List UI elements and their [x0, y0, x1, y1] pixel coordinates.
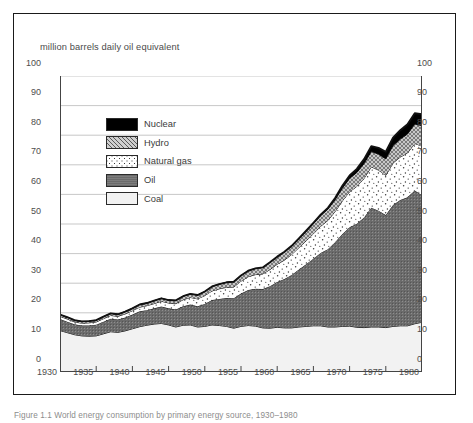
y-tick-label-right: 0 [417, 355, 443, 364]
legend-swatch-nuclear [106, 118, 138, 131]
y-tick-label-right: 100 [417, 59, 443, 68]
y-tick-label-right: 90 [417, 88, 443, 97]
y-tick-label-left: 50 [17, 207, 41, 216]
legend-swatch-natural_gas [106, 155, 138, 168]
legend-item-hydro: Hydro [106, 134, 192, 153]
legend-item-nuclear: Nuclear [106, 115, 192, 134]
legend-swatch-hydro [106, 136, 138, 149]
y-tick-label-right: 50 [417, 207, 443, 216]
y-tick-label-left: 30 [17, 266, 41, 275]
chart-frame: million barrels daily oil equivalent [13, 13, 456, 395]
chart-title: million barrels daily oil equivalent [40, 42, 180, 52]
y-tick-label-right: 20 [417, 295, 443, 304]
legend-label-oil: Oil [144, 175, 155, 185]
y-tick-label-left: 80 [17, 118, 41, 127]
x-tick-label: 1935 [66, 368, 100, 377]
y-tick-label-left: 100 [17, 59, 41, 68]
y-tick-label-right: 10 [417, 325, 443, 334]
legend-label-natural_gas: Natural gas [144, 156, 192, 166]
x-tick-label: 1940 [102, 368, 136, 377]
legend-label-hydro: Hydro [144, 138, 169, 148]
legend-item-natural_gas: Natural gas [106, 152, 192, 171]
y-tick-label-left: 10 [17, 325, 41, 334]
legend-item-coal: Coal [106, 189, 192, 208]
x-tick-label: 1950 [175, 368, 209, 377]
figure-caption: Figure 1.1 World energy consumption by p… [14, 411, 298, 420]
y-tick-label-right: 70 [417, 147, 443, 156]
y-tick-label-right: 40 [417, 236, 443, 245]
x-tick-label: 1975 [356, 368, 390, 377]
legend-label-nuclear: Nuclear [144, 119, 176, 129]
x-tick-label: 1960 [247, 368, 281, 377]
x-tick-label: 1930 [30, 368, 64, 377]
x-tick-label: 1965 [283, 368, 317, 377]
legend-item-oil: Oil [106, 171, 192, 190]
y-tick-label-left: 20 [17, 295, 41, 304]
y-tick-label-right: 80 [417, 118, 443, 127]
y-tick-label-left: 40 [17, 236, 41, 245]
y-tick-label-left: 0 [17, 355, 41, 364]
y-tick-label-right: 60 [417, 177, 443, 186]
figure-container: million barrels daily oil equivalent [0, 0, 473, 423]
y-tick-label-left: 70 [17, 147, 41, 156]
legend-swatch-oil [106, 174, 138, 187]
x-tick-label: 1955 [211, 368, 245, 377]
x-tick-label: 1945 [139, 368, 173, 377]
chart-legend: NuclearHydroNatural gasOilCoal [106, 115, 192, 208]
x-tick-label: 1970 [320, 368, 354, 377]
legend-label-coal: Coal [144, 194, 163, 204]
y-tick-label-left: 90 [17, 88, 41, 97]
legend-swatch-coal [106, 192, 138, 205]
x-tick-label: 1980 [392, 368, 426, 377]
y-tick-label-right: 30 [417, 266, 443, 275]
y-tick-label-left: 60 [17, 177, 41, 186]
